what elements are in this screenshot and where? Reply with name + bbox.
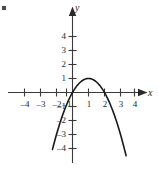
y-tick-label-1: 1 bbox=[56, 74, 66, 83]
x-tick-label-3: 3 bbox=[115, 100, 127, 109]
coordinate-plane bbox=[0, 0, 158, 169]
y-tick-label-4: 4 bbox=[56, 32, 66, 41]
x-tick-label-2: 2 bbox=[99, 100, 111, 109]
y-tick-label--1: –1 bbox=[51, 102, 66, 111]
x-tick-label--4: –4 bbox=[17, 100, 33, 109]
x-tick-label--3: –3 bbox=[33, 100, 49, 109]
x-axis-label: x bbox=[148, 88, 152, 98]
x-tick-label-4: 4 bbox=[129, 100, 141, 109]
x-tick-label-1: 1 bbox=[83, 100, 95, 109]
y-tick-label--4: –4 bbox=[51, 144, 66, 153]
graph-figure: –4 –3 –2 –1 1 2 3 4 4 3 2 1 –1 –2 –3 –4 … bbox=[0, 0, 158, 169]
y-tick-label--3: –3 bbox=[51, 130, 66, 139]
y-axis-label: y bbox=[75, 3, 79, 13]
y-tick-label-3: 3 bbox=[56, 46, 66, 55]
arrow-right-icon bbox=[138, 89, 148, 96]
y-tick-label--2: –2 bbox=[51, 116, 66, 125]
y-tick-label-2: 2 bbox=[56, 60, 66, 69]
